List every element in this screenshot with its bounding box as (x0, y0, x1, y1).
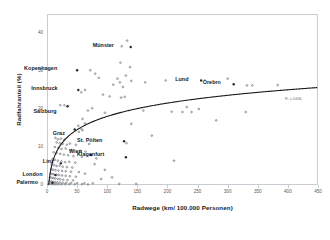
labeled-data-point (66, 105, 68, 107)
x-tick-mark (137, 185, 138, 188)
data-point (82, 129, 84, 131)
y-tick-label: 40 (31, 30, 43, 35)
data-point (92, 182, 94, 184)
data-point (56, 142, 58, 144)
data-point (59, 153, 61, 155)
data-point (53, 151, 55, 153)
data-point (67, 179, 69, 181)
data-point (191, 111, 193, 113)
data-point (186, 106, 188, 108)
data-point (59, 104, 61, 106)
data-point (82, 118, 84, 120)
x-tick-label: 0 (37, 189, 57, 194)
y-axis-title: Radfahranteil (%) (15, 52, 22, 148)
data-point (91, 107, 93, 109)
x-tick-label: 50 (67, 189, 87, 194)
city-label: Salzburg (33, 108, 56, 114)
data-point (109, 96, 111, 98)
data-point (182, 111, 184, 113)
city-label: Kopenhagen (24, 65, 57, 71)
data-point (78, 131, 80, 133)
data-point (55, 183, 57, 185)
data-point (52, 169, 54, 171)
data-point (94, 73, 96, 75)
labeled-data-point (77, 89, 79, 91)
labeled-data-point (54, 174, 56, 176)
data-point (73, 155, 75, 157)
labeled-data-point (125, 156, 127, 158)
data-point (90, 69, 92, 71)
data-point (56, 165, 58, 167)
data-point (124, 96, 126, 98)
city-label: Graz (53, 130, 65, 136)
data-point (62, 166, 64, 168)
city-label: Lund (175, 76, 188, 82)
data-point (87, 184, 89, 186)
x-tick-mark (198, 185, 199, 188)
r-squared-annotation: R² = 0,636 (285, 97, 301, 101)
data-point (76, 182, 78, 184)
data-point (84, 173, 86, 175)
x-tick-label: 200 (157, 189, 177, 194)
labeled-data-point (76, 69, 78, 71)
x-tick-label: 450 (308, 189, 328, 194)
data-point (58, 174, 60, 176)
data-point (58, 170, 60, 172)
city-label: Örebro (203, 79, 221, 85)
data-point (53, 177, 55, 179)
data-point (57, 178, 59, 180)
data-point (54, 159, 56, 161)
data-point (80, 91, 82, 93)
x-tick-mark (318, 185, 319, 188)
x-tick-label: 300 (218, 189, 238, 194)
city-label: Innsbruck (31, 85, 57, 91)
data-point (83, 182, 85, 184)
data-point (66, 144, 68, 146)
data-point (143, 110, 145, 112)
data-point (96, 158, 98, 160)
data-point (252, 85, 254, 87)
data-point (74, 162, 76, 164)
data-point (87, 110, 89, 112)
city-label: London (22, 171, 42, 177)
x-tick-label: 350 (248, 189, 268, 194)
data-point (130, 123, 132, 125)
data-point (88, 143, 90, 145)
data-point (122, 86, 124, 88)
x-tick-label: 150 (127, 189, 147, 194)
data-point (69, 175, 71, 177)
data-point (171, 111, 173, 113)
data-point (215, 120, 217, 122)
data-point (57, 139, 59, 141)
data-point (129, 66, 131, 68)
data-point (119, 82, 121, 84)
data-point (53, 164, 55, 166)
data-point (75, 176, 77, 178)
data-point (53, 183, 55, 185)
data-point (61, 148, 63, 150)
data-point (59, 142, 61, 144)
labeled-data-point (232, 83, 234, 85)
data-point (246, 85, 248, 87)
data-point (61, 183, 63, 185)
data-point (69, 143, 71, 145)
x-tick-mark (288, 185, 289, 188)
data-point (58, 183, 60, 185)
data-point (72, 180, 74, 182)
data-point (71, 167, 73, 169)
data-point (144, 82, 146, 84)
data-point (165, 80, 167, 82)
data-point (111, 177, 113, 179)
data-point (151, 135, 153, 137)
data-point (64, 104, 66, 106)
data-point (104, 169, 106, 171)
data-point (59, 182, 61, 184)
data-point (74, 183, 76, 185)
data-point (173, 160, 175, 162)
x-axis-title: Radwege (km/ 100.000 Personen) (47, 204, 318, 211)
data-point (100, 178, 102, 180)
data-point (84, 89, 86, 91)
labeled-data-point (74, 128, 76, 130)
data-point (104, 112, 106, 114)
data-point (55, 137, 57, 139)
